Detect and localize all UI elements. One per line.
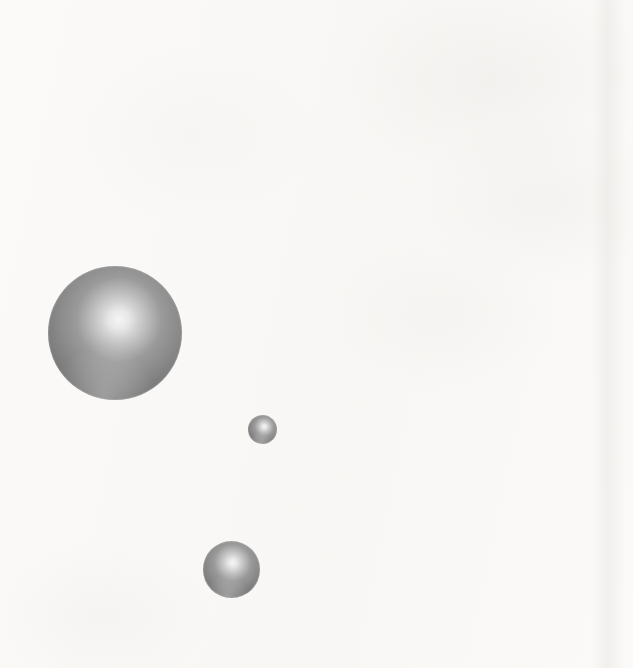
- scan-band: [592, 0, 626, 668]
- figure-canvas: [0, 0, 633, 668]
- sphere-medium: [203, 541, 260, 598]
- sphere-large-rim: [48, 266, 182, 400]
- sphere-large: [48, 266, 182, 400]
- sphere-medium-rim: [203, 541, 260, 598]
- sphere-small-rim: [248, 415, 277, 444]
- sphere-small: [248, 415, 277, 444]
